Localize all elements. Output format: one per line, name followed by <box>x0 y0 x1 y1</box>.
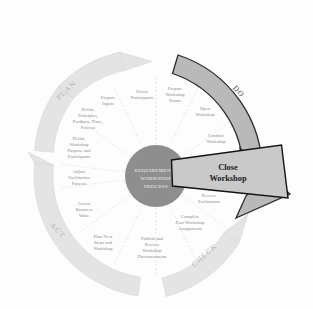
step-label-review-evaluations: Review Evaluations <box>198 193 220 204</box>
step-label-publish-and-review-workshop-documentation: Publish and Review Workshop Documentatio… <box>138 236 168 259</box>
step-label-orient-participants: Orient Participants <box>131 89 153 100</box>
step-label-conduct-workshop: Conduct Workshop <box>206 133 226 144</box>
svg-text:Define: Define <box>73 136 86 141</box>
callout-close-workshop[interactable]: Close Workshop <box>172 145 289 198</box>
svg-text:Participants: Participants <box>131 95 153 100</box>
svg-text:Process: Process <box>72 181 87 186</box>
svg-text:Value: Value <box>79 213 90 218</box>
svg-text:Define: Define <box>82 107 95 112</box>
step-label-prepare-inputs: Prepare Inputs <box>101 95 115 106</box>
svg-text:Prepare: Prepare <box>168 86 182 91</box>
step-label-prepare-workshop-room: Prepare Workshop Room <box>165 86 185 103</box>
svg-text:Participants: Participants <box>68 154 90 159</box>
step-label-define-principles-products-place-process: Define Principles, Products, Place, Proc… <box>73 107 103 130</box>
svg-text:Evaluations: Evaluations <box>198 199 220 204</box>
svg-text:Facilitation: Facilitation <box>68 175 90 180</box>
center-label-line-1: REQUIREMENTS <box>135 168 178 173</box>
svg-text:Orient: Orient <box>136 89 149 94</box>
process-wheel: REQUIREMENTS WORKSHOP PROCESS Prepare In… <box>0 0 313 309</box>
svg-text:Adjust: Adjust <box>73 169 86 174</box>
svg-text:Plan Next: Plan Next <box>94 234 113 239</box>
step-label-assess-business-value: Assess Business Value <box>76 201 93 218</box>
step-label-open-workshop: Open Workshop <box>195 106 215 117</box>
svg-text:Review: Review <box>202 193 217 198</box>
requirements-workshop-process-diagram: REQUIREMENTS WORKSHOP PROCESS Prepare In… <box>0 0 313 309</box>
svg-text:Post-Workshop: Post-Workshop <box>176 220 206 225</box>
callout-label-line-1: Close <box>218 163 238 172</box>
svg-text:Prepare: Prepare <box>101 95 115 100</box>
svg-text:Workshop: Workshop <box>93 246 113 251</box>
svg-text:Workshop: Workshop <box>206 139 226 144</box>
step-label-define-workshop-purpose-and-participants: Define Workshop Purpose and Participants <box>67 136 91 159</box>
svg-text:Workshop: Workshop <box>69 142 89 147</box>
svg-text:Publish and: Publish and <box>141 236 164 241</box>
step-label-plan-next-steps-and-workshop: Plan Next Steps and Workshop <box>93 234 113 251</box>
svg-text:Inputs: Inputs <box>102 101 114 106</box>
svg-text:Purpose and: Purpose and <box>67 148 91 153</box>
svg-text:Conduct: Conduct <box>208 133 225 138</box>
svg-text:Review: Review <box>145 242 160 247</box>
svg-text:Steps and: Steps and <box>94 240 113 245</box>
center-label-line-3: PROCESS <box>144 184 168 189</box>
svg-text:Workshop: Workshop <box>165 92 185 97</box>
svg-text:Open: Open <box>200 106 211 111</box>
callout-label-line-2: Workshop <box>209 174 247 183</box>
svg-text:Assess: Assess <box>78 201 91 206</box>
svg-text:Documentation: Documentation <box>138 254 168 259</box>
svg-text:Room: Room <box>169 98 181 103</box>
svg-text:Process: Process <box>81 125 96 130</box>
step-label-complete-post-workshop-assignments: Complete Post-Workshop Assignments <box>176 214 206 231</box>
svg-text:Business: Business <box>76 207 93 212</box>
step-label-adjust-facilitation-process: Adjust Facilitation Process <box>68 169 90 186</box>
center-label-line-2: WORKSHOP <box>141 176 172 181</box>
svg-text:Assignments: Assignments <box>178 226 202 231</box>
svg-text:Workshop: Workshop <box>142 248 162 253</box>
svg-text:Complete: Complete <box>181 214 199 219</box>
svg-text:Workshop: Workshop <box>195 112 215 117</box>
